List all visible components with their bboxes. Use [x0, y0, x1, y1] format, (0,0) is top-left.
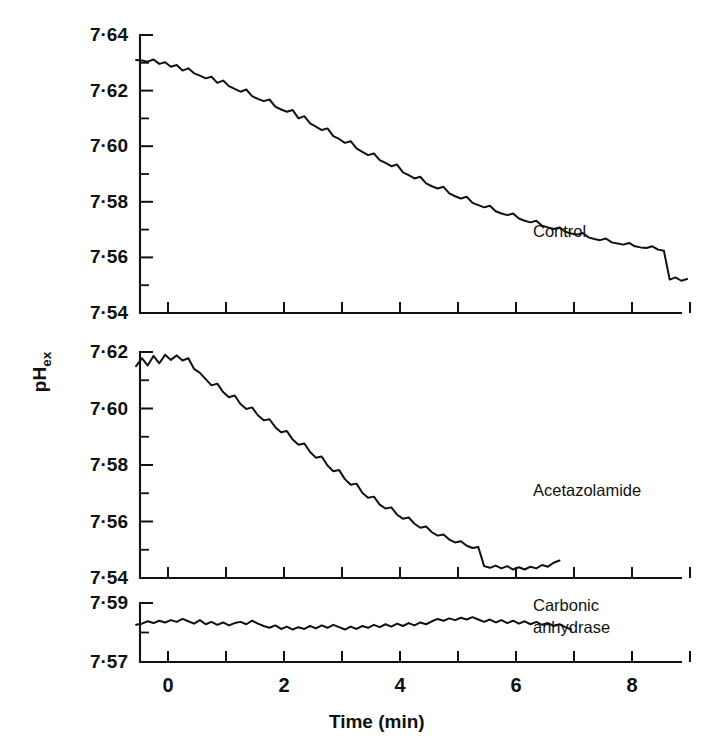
y-tick-label: 7·54: [90, 302, 128, 323]
x-tick-label: 2: [278, 674, 289, 696]
x-tick-label: 6: [510, 674, 521, 696]
panel-label-carbonic-anhydrase-line1: Carbonic: [533, 596, 599, 614]
y-tick-label: 7·57: [90, 651, 128, 672]
panel-label-acetazolamide: Acetazolamide: [533, 481, 641, 499]
trace-acetazolamide: [136, 355, 559, 570]
ph-time-course-figure: 7·647·627·607·587·567·547·627·607·587·56…: [0, 0, 711, 748]
y-tick-label: 7·60: [90, 135, 128, 156]
trace-carbonic-anhydrase: [136, 617, 571, 629]
x-axis-title: Time (min): [329, 711, 425, 732]
y-axis-title-text: pHex: [29, 351, 54, 392]
panel-control: 7·647·627·607·587·567·54: [90, 24, 690, 323]
figure-container: 7·647·627·607·587·567·547·627·607·587·56…: [0, 0, 711, 748]
panel-acetazolamide: 7·627·607·587·567·54: [90, 341, 690, 588]
y-tick-label: 7·58: [90, 191, 128, 212]
panel-label-control: Control: [533, 222, 586, 240]
y-tick-label: 7·56: [90, 246, 128, 267]
axis-spines: [140, 35, 681, 313]
panel-label-carbonic-anhydrase-line2: anhydrase: [533, 618, 610, 636]
x-tick-label: 8: [626, 674, 637, 696]
y-axis-title: pHex: [29, 351, 54, 392]
y-tick-label: 7·64: [90, 24, 128, 45]
y-tick-label: 7·60: [90, 398, 128, 419]
y-tick-label: 7·58: [90, 454, 128, 475]
axis-spines: [140, 352, 681, 578]
x-tick-label: 4: [394, 674, 406, 696]
y-tick-label: 7·56: [90, 511, 128, 532]
y-tick-label: 7·59: [90, 592, 128, 613]
y-tick-label: 7·62: [90, 80, 128, 101]
x-tick-label: 0: [162, 674, 173, 696]
y-tick-label: 7·62: [90, 341, 128, 362]
trace-control: [136, 59, 687, 280]
y-tick-label: 7·54: [90, 567, 128, 588]
